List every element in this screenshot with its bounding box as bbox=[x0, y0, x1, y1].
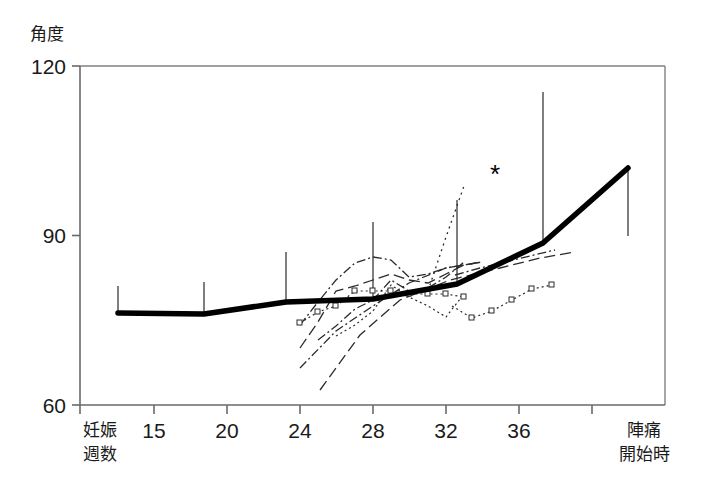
subject-trace-9 bbox=[452, 285, 552, 318]
y-tick-label-60: 60 bbox=[43, 394, 66, 417]
chart-figure: 120 90 60 角度 15 20 24 28 32 36 妊娠 週数 陣痛 … bbox=[0, 0, 721, 488]
mean-error-bars bbox=[118, 92, 628, 314]
y-axis-title: 角度 bbox=[30, 25, 64, 44]
angle-vs-gestational-week-line-chart: 120 90 60 角度 15 20 24 28 32 36 妊娠 週数 陣痛 … bbox=[0, 0, 721, 488]
y-tick-label-120: 120 bbox=[31, 55, 66, 78]
x-axis-start-label-line1: 妊娠 bbox=[83, 421, 117, 440]
x-tick-label-24: 24 bbox=[288, 419, 312, 442]
subject-trace-7 bbox=[300, 262, 482, 368]
x-axis-end-label-line1: 陣痛 bbox=[627, 421, 661, 440]
subject-trace-2 bbox=[300, 262, 482, 348]
x-axis-end-label-line2: 開始時 bbox=[619, 445, 670, 464]
x-tick-label-20: 20 bbox=[215, 419, 238, 442]
x-tick-label-32: 32 bbox=[434, 419, 457, 442]
y-tick-label-90: 90 bbox=[43, 224, 66, 247]
x-axis-ticks bbox=[80, 405, 592, 414]
x-tick-label-28: 28 bbox=[361, 419, 384, 442]
x-axis-start-label-line2: 週数 bbox=[83, 445, 117, 464]
x-tick-label-15: 15 bbox=[142, 419, 165, 442]
subject-trace-6 bbox=[428, 186, 464, 291]
significance-asterisk: * bbox=[490, 159, 500, 189]
y-axis-ticks bbox=[72, 66, 80, 405]
x-tick-label-36: 36 bbox=[507, 419, 530, 442]
